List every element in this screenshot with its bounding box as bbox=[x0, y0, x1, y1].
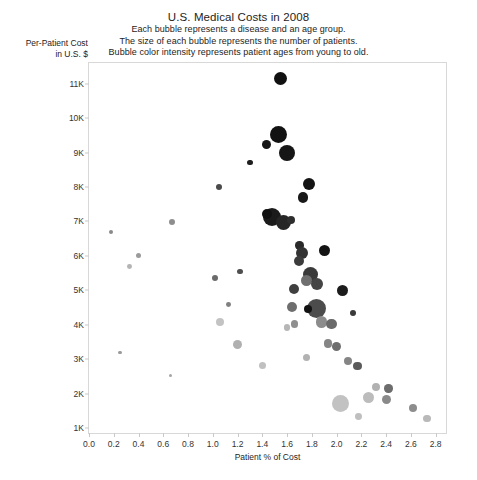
bubble-point bbox=[233, 340, 242, 349]
bubble-point bbox=[216, 318, 224, 326]
x-axis-tick-mark bbox=[238, 433, 239, 437]
bubble-point bbox=[304, 305, 312, 313]
bubble-point bbox=[289, 284, 299, 294]
x-axis-tick-mark bbox=[312, 433, 313, 437]
y-axis-tick-mark bbox=[85, 118, 89, 119]
bubble-point bbox=[298, 192, 308, 202]
bubble-chart: U.S. Medical Costs in 2008 Each bubble r… bbox=[0, 0, 477, 480]
chart-subtitle-line-1: Each bubble represents a disease and an … bbox=[0, 24, 477, 36]
x-axis-tick-mark bbox=[139, 433, 140, 437]
bubble-point bbox=[279, 145, 295, 161]
bubble-point bbox=[332, 395, 349, 412]
bubble-point bbox=[237, 269, 242, 274]
bubble-point bbox=[409, 404, 417, 412]
plot-area: 1K2K3K4K5K6K7K8K9K10K11K 0.00.20.40.60.8… bbox=[88, 62, 447, 434]
bubble-point bbox=[291, 320, 298, 327]
bubble-point bbox=[136, 253, 141, 258]
y-axis-tick-mark bbox=[85, 359, 89, 360]
y-axis-label: Per-Patient Cost in U.S. $ bbox=[4, 38, 88, 60]
bubble-point bbox=[118, 351, 121, 354]
bubble-point bbox=[303, 178, 315, 190]
x-axis-tick-mark bbox=[361, 433, 362, 437]
x-axis-tick-mark bbox=[188, 433, 189, 437]
x-axis-tick-mark bbox=[287, 433, 288, 437]
bubble-point bbox=[384, 384, 392, 392]
bubble-point bbox=[169, 374, 172, 377]
y-axis-label-line-1: Per-Patient Cost bbox=[4, 38, 88, 49]
x-axis-tick-mark bbox=[89, 433, 90, 437]
bubble-point bbox=[226, 302, 231, 307]
y-axis-tick-mark bbox=[85, 221, 89, 222]
chart-title: U.S. Medical Costs in 2008 bbox=[0, 10, 477, 24]
x-axis-tick-mark bbox=[386, 433, 387, 437]
bubble-point bbox=[284, 324, 290, 330]
bubble-point bbox=[372, 383, 380, 391]
bubble-point bbox=[423, 415, 430, 422]
bubble-point bbox=[259, 362, 266, 369]
bubble-point bbox=[344, 357, 352, 365]
bubble-point bbox=[332, 342, 341, 351]
y-axis-label-line-2: in U.S. $ bbox=[4, 49, 88, 60]
bubble-point bbox=[216, 184, 222, 190]
bubble-point bbox=[337, 285, 348, 296]
bubble-point bbox=[355, 413, 362, 420]
bubble-point bbox=[274, 72, 287, 85]
bubble-point bbox=[270, 126, 287, 143]
y-axis-tick-mark bbox=[85, 290, 89, 291]
x-axis-tick-mark bbox=[411, 433, 412, 437]
bubble-point bbox=[247, 160, 252, 165]
x-axis-tick-mark bbox=[163, 433, 164, 437]
bubble-series bbox=[89, 63, 446, 433]
bubble-point bbox=[324, 339, 333, 348]
bubble-point bbox=[319, 245, 330, 256]
y-axis-tick-mark bbox=[85, 255, 89, 256]
x-axis-tick-mark bbox=[262, 433, 263, 437]
bubble-point bbox=[350, 310, 356, 316]
y-axis-tick-mark bbox=[85, 83, 89, 84]
bubble-point bbox=[303, 354, 310, 361]
x-axis-tick-mark bbox=[436, 433, 437, 437]
bubble-point bbox=[287, 302, 297, 312]
bubble-point bbox=[212, 275, 218, 281]
y-axis-tick-mark bbox=[85, 428, 89, 429]
x-axis-tick-mark bbox=[213, 433, 214, 437]
bubble-point bbox=[326, 319, 336, 329]
bubble-point bbox=[262, 140, 271, 149]
y-axis-tick-mark bbox=[85, 187, 89, 188]
bubble-point bbox=[363, 392, 374, 403]
y-axis-tick-mark bbox=[85, 393, 89, 394]
x-axis-label: Patient % of Cost bbox=[88, 452, 447, 462]
y-axis-tick-mark bbox=[85, 152, 89, 153]
bubble-point bbox=[169, 219, 175, 225]
bubble-point bbox=[382, 395, 391, 404]
bubble-point bbox=[294, 256, 304, 266]
x-axis-tick-mark bbox=[337, 433, 338, 437]
bubble-point bbox=[311, 278, 323, 290]
bubble-point bbox=[127, 264, 132, 269]
bubble-point bbox=[287, 216, 295, 224]
bubble-point bbox=[109, 230, 113, 234]
y-axis-tick-mark bbox=[85, 324, 89, 325]
x-axis-tick-mark bbox=[114, 433, 115, 437]
bubble-point bbox=[353, 362, 361, 370]
